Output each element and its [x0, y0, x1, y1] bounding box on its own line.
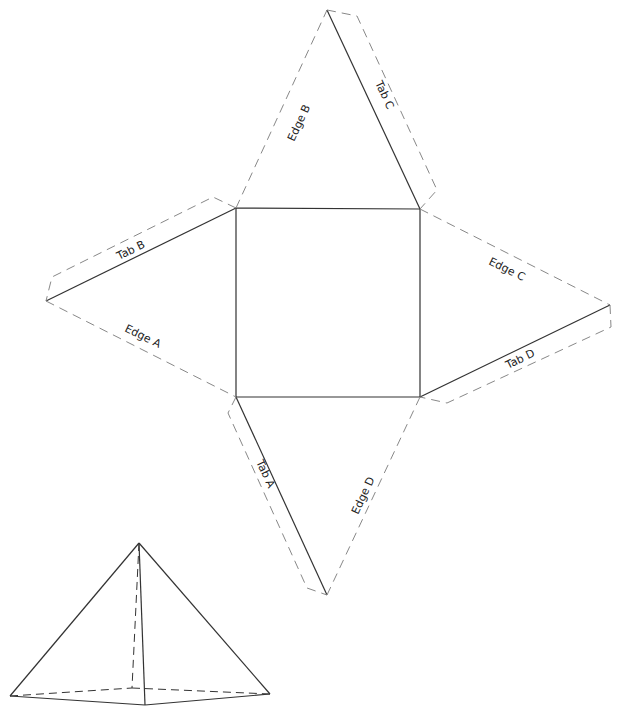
- right-tab-fold-line: [420, 305, 610, 397]
- label-edge-a: Edge A: [123, 322, 164, 351]
- label-edge-b: Edge B: [285, 103, 313, 144]
- pyramid-net-diagram: Edge B Tab C Tab B Edge A Edge C Tab D T…: [0, 0, 628, 720]
- left-tab-fold-line: [46, 208, 236, 301]
- label-edge-c: Edge C: [487, 255, 528, 284]
- base-square: [236, 208, 420, 397]
- edge-b-line: [236, 10, 327, 208]
- label-tab-d: Tab D: [503, 347, 537, 373]
- assembled-pyramid: [10, 543, 270, 705]
- label-tab-a: Tab A: [253, 457, 278, 491]
- bottom-tab-fold-line: [236, 397, 327, 595]
- edge-c-line: [420, 209, 610, 305]
- label-tab-c: Tab C: [372, 78, 397, 112]
- tab-c-outline: [327, 10, 437, 209]
- tab-a-outline: [228, 397, 327, 595]
- top-tab-fold-line: [327, 10, 420, 209]
- edge-d-line: [327, 397, 420, 595]
- edge-a-line: [46, 301, 236, 397]
